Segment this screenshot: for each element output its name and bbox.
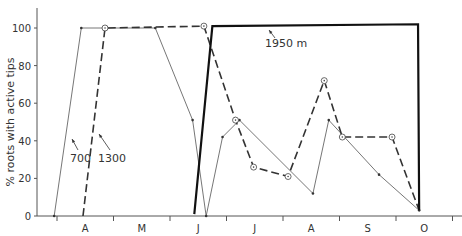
y-tick-label: 20 (18, 173, 31, 184)
y-tick-label: 60 (18, 98, 31, 109)
x-month-label: A (82, 223, 89, 234)
x-ticks: AMJJASO (57, 216, 453, 234)
x-month-label: J (252, 223, 256, 234)
y-tick-label: 0 (25, 211, 31, 222)
y-axis-label: % roots with active tips (4, 57, 17, 186)
x-month-label: S (365, 223, 371, 234)
data-point-center (323, 80, 325, 82)
data-point (53, 215, 56, 218)
annotations: 700 1300 1950 m (70, 30, 307, 165)
series-line-1300 (83, 26, 419, 216)
data-point (312, 192, 315, 195)
data-point-center (104, 27, 106, 29)
x-month-label: J (196, 223, 200, 234)
y-tick-label: 40 (18, 136, 31, 147)
data-point-center (391, 136, 393, 138)
x-month-label: A (308, 223, 315, 234)
x-month-label: O (420, 223, 428, 234)
x-month-label: M (137, 223, 146, 234)
data-point-center (342, 136, 344, 138)
data-point-center (287, 176, 289, 178)
data-point-center (253, 166, 255, 168)
series-line-1950-m (194, 24, 419, 214)
series-group (53, 23, 421, 217)
y-tick-label: 80 (18, 61, 31, 72)
y-tick-label: 100 (12, 23, 31, 34)
data-point (221, 136, 224, 139)
data-point-center (203, 25, 205, 27)
data-point-center (235, 119, 237, 121)
label-1300: 1300 (98, 152, 126, 165)
arrow-head (99, 134, 102, 138)
data-point (191, 119, 194, 122)
data-point (327, 119, 330, 122)
label-700: 700 (70, 152, 91, 165)
data-point (205, 215, 208, 218)
label-1950: 1950 m (265, 37, 307, 50)
data-point (80, 27, 83, 30)
data-point (378, 173, 381, 176)
line-chart: 020406080100 AMJJASO % roots with active… (0, 0, 462, 236)
